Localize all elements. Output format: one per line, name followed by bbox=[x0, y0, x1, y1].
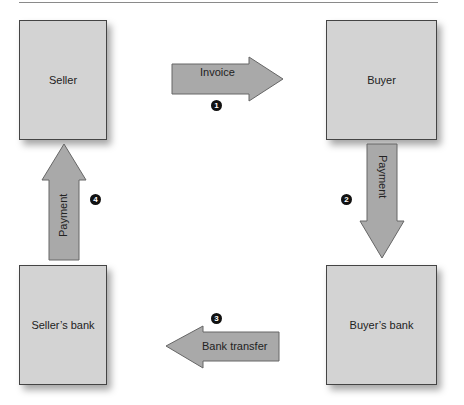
node-buyer: Buyer bbox=[326, 20, 437, 140]
node-buyers-bank: Buyer’s bank bbox=[326, 265, 437, 385]
node-seller-label: Seller bbox=[49, 74, 77, 86]
edge-payment-4-label: Payment bbox=[57, 194, 69, 237]
step-2-marker: 2 bbox=[341, 194, 352, 205]
step-3-marker: 3 bbox=[211, 313, 222, 324]
edge-bank-transfer-label: Bank transfer bbox=[202, 340, 267, 352]
node-sellers-bank: Seller’s bank bbox=[19, 265, 107, 385]
step-1-marker: 1 bbox=[211, 100, 222, 111]
node-sellers-bank-label: Seller’s bank bbox=[31, 319, 94, 331]
top-rule bbox=[19, 2, 438, 3]
edge-payment-2-label: Payment bbox=[377, 155, 389, 198]
node-seller: Seller bbox=[19, 20, 107, 140]
edge-invoice-label: Invoice bbox=[200, 66, 235, 78]
node-buyer-label: Buyer bbox=[367, 74, 396, 86]
node-buyers-bank-label: Buyer’s bank bbox=[350, 319, 414, 331]
arrow-right-icon bbox=[171, 56, 286, 102]
step-4-marker: 4 bbox=[90, 194, 101, 205]
